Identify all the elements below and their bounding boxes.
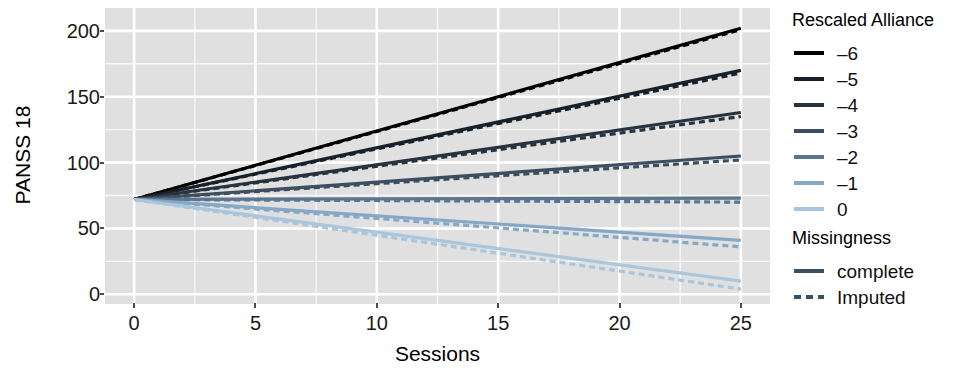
chart-root: PANSS 18 050100150200 0510152025 Session… xyxy=(0,0,956,377)
legend-swatch xyxy=(792,40,826,66)
legend-swatch xyxy=(792,170,826,196)
legend-item-alliance[interactable]: –1 xyxy=(792,170,934,196)
legend-title-alliance: Rescaled Alliance xyxy=(792,10,934,31)
x-tick-mark xyxy=(133,303,135,308)
legend-item-label: 0 xyxy=(837,200,848,219)
legend-missingness: Missingness completeImputed xyxy=(792,228,914,310)
legend-item-label: –5 xyxy=(837,70,858,89)
x-tick-mark xyxy=(497,303,499,308)
legend-item-alliance[interactable]: –4 xyxy=(792,92,934,118)
legend-key-solid-line xyxy=(794,207,824,211)
legend-item-missingness[interactable]: complete xyxy=(792,258,914,284)
legend-alliance-rows: –6–5–4–3–2–10 xyxy=(792,40,934,222)
legend-key-solid-line xyxy=(794,181,824,185)
legend-item-label: –6 xyxy=(837,44,858,63)
legend-key-solid-line xyxy=(794,77,824,81)
x-tick-label: 15 xyxy=(487,312,509,335)
x-tick-label: 20 xyxy=(608,312,630,335)
legend-rescaled-alliance: Rescaled Alliance –6–5–4–3–2–10 xyxy=(792,10,934,222)
x-tick-mark xyxy=(254,303,256,308)
legend-key-solid-line xyxy=(794,155,824,159)
legend-item-label: –3 xyxy=(837,122,858,141)
legend-item-alliance[interactable]: 0 xyxy=(792,196,934,222)
legend-item-missingness[interactable]: Imputed xyxy=(792,284,914,310)
legend-item-label: –1 xyxy=(837,174,858,193)
x-tick-label: 5 xyxy=(250,312,261,335)
legend-item-label: –2 xyxy=(837,148,858,167)
x-tick-label: 25 xyxy=(730,312,752,335)
legend-item-label: –4 xyxy=(837,96,858,115)
legend-swatch xyxy=(792,258,826,284)
legend-item-label: complete xyxy=(837,262,914,281)
legend-swatch xyxy=(792,92,826,118)
x-tick-label: 10 xyxy=(366,312,388,335)
legend-swatch xyxy=(792,144,826,170)
x-axis-title: Sessions xyxy=(105,342,770,366)
legend-key-solid-line xyxy=(794,269,824,273)
legend-swatch xyxy=(792,196,826,222)
legend-key-dashed-line xyxy=(794,295,824,299)
legend-key-solid-line xyxy=(794,51,824,55)
x-tick-mark xyxy=(619,303,621,308)
legend-swatch xyxy=(792,66,826,92)
legend-title-missingness: Missingness xyxy=(792,228,914,249)
legend-swatch xyxy=(792,118,826,144)
legend-item-alliance[interactable]: –2 xyxy=(792,144,934,170)
legend-key-solid-line xyxy=(794,129,824,133)
legend-item-label: Imputed xyxy=(837,288,906,307)
legend-missingness-rows: completeImputed xyxy=(792,258,914,310)
legend-item-alliance[interactable]: –3 xyxy=(792,118,934,144)
legend-key-solid-line xyxy=(794,103,824,107)
legend-swatch xyxy=(792,284,826,310)
legend-item-alliance[interactable]: –6 xyxy=(792,40,934,66)
legend-item-alliance[interactable]: –5 xyxy=(792,66,934,92)
x-tick-mark xyxy=(740,303,742,308)
x-tick-mark xyxy=(376,303,378,308)
x-tick-label: 0 xyxy=(129,312,140,335)
